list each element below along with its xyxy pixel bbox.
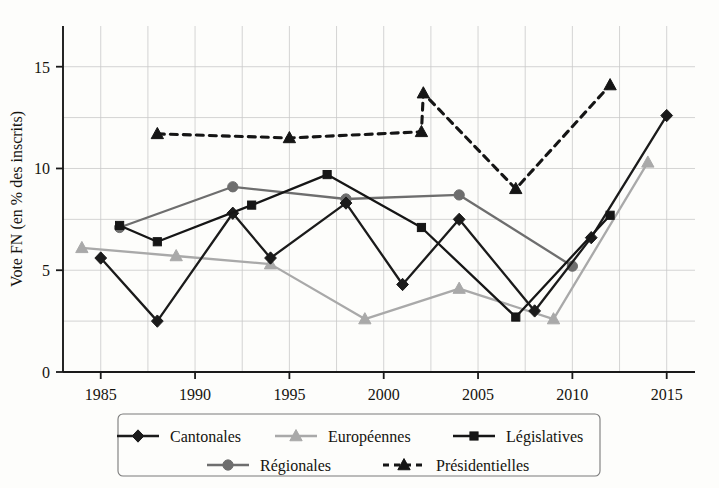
- legend-label: Régionales: [260, 457, 331, 475]
- legend-label: Présidentielles: [436, 457, 529, 474]
- data-point-marker: [606, 211, 614, 219]
- y-axis-label: Vote FN (en % des inscrits): [8, 111, 26, 287]
- x-tick-label: 1990: [179, 386, 211, 403]
- legend-label: Européennes: [328, 428, 411, 446]
- data-point-marker: [417, 223, 425, 231]
- data-point-marker: [248, 201, 256, 209]
- data-point-marker: [323, 170, 331, 178]
- x-tick-label: 2015: [651, 386, 683, 403]
- y-tick-label: 5: [42, 262, 50, 279]
- data-point-marker: [512, 313, 520, 321]
- legend-label: Cantonales: [170, 428, 241, 445]
- x-tick-label: 2005: [462, 386, 494, 403]
- y-tick-label: 15: [34, 59, 50, 76]
- chart-background: [0, 0, 719, 488]
- legend-marker: [470, 432, 478, 440]
- x-tick-label: 2000: [368, 386, 400, 403]
- data-point-marker: [454, 190, 464, 200]
- legend-label: Législatives: [506, 428, 583, 446]
- vote-fn-line-chart: 1985199019952000200520102015 051015 Vote…: [0, 0, 719, 488]
- y-axis-title: Vote FN (en % des inscrits): [8, 111, 26, 287]
- x-tick-label: 2010: [556, 386, 588, 403]
- y-tick-label: 0: [42, 364, 50, 381]
- x-tick-label: 1995: [273, 386, 305, 403]
- y-tick-label: 10: [34, 160, 50, 177]
- legend-marker: [223, 460, 233, 470]
- data-point-marker: [228, 182, 238, 192]
- data-point-marker: [116, 221, 124, 229]
- chart-container: 1985199019952000200520102015 051015 Vote…: [0, 0, 719, 488]
- data-point-marker: [153, 238, 161, 246]
- x-tick-label: 1985: [85, 386, 117, 403]
